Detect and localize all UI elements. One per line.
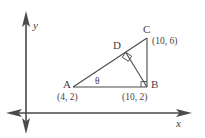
geometry-figure: y x A (4, 2) B (10, 2) C (10, 6) D θ [0, 0, 205, 138]
angle-theta-label: θ [95, 77, 100, 87]
point-coord-c: (10, 6) [152, 37, 177, 47]
segment-ca [73, 38, 147, 87]
point-label-c: C [143, 24, 150, 35]
point-coord-b: (10, 2) [122, 93, 147, 103]
x-axis-label: x [176, 118, 181, 129]
point-label-d: D [113, 40, 121, 51]
point-label-b: B [151, 79, 158, 90]
diagram-canvas [0, 0, 205, 138]
point-coord-a: (4, 2) [57, 93, 78, 103]
y-axis-label: y [33, 20, 38, 31]
point-label-a: A [63, 79, 71, 90]
